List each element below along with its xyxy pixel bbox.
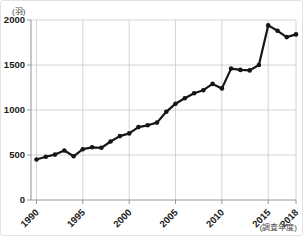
data-point bbox=[99, 146, 104, 151]
data-point bbox=[145, 123, 150, 128]
y-tick-label: 1000 bbox=[4, 104, 25, 115]
x-tick-label: 2010 bbox=[204, 207, 227, 230]
data-point bbox=[90, 145, 95, 150]
y-tick-label: 1500 bbox=[4, 59, 25, 70]
data-point bbox=[220, 86, 225, 91]
data-point bbox=[183, 96, 188, 101]
data-point bbox=[164, 110, 169, 115]
data-point bbox=[210, 82, 215, 87]
data-point bbox=[71, 154, 76, 159]
x-axis-caption: (調査年度) bbox=[260, 221, 297, 232]
data-point bbox=[118, 134, 123, 139]
data-point bbox=[53, 152, 58, 157]
y-axis-unit-label: (羽) bbox=[12, 5, 25, 16]
data-point bbox=[81, 147, 86, 152]
x-tick-label: 1995 bbox=[65, 206, 88, 229]
data-point bbox=[284, 35, 289, 40]
data-point bbox=[238, 68, 243, 73]
x-tick-label: 2005 bbox=[157, 206, 180, 229]
y-tick-label: 0 bbox=[20, 194, 25, 205]
line-chart-figure: (羽) 050010001500200019901995200020052010… bbox=[0, 0, 303, 236]
x-tick-label: 1990 bbox=[18, 207, 41, 230]
y-tick-label: 500 bbox=[9, 149, 25, 160]
data-point bbox=[294, 32, 299, 37]
data-point bbox=[257, 63, 262, 68]
chart-svg: 0500100015002000199019952000200520102015… bbox=[1, 1, 303, 236]
data-line bbox=[37, 25, 297, 159]
data-point bbox=[275, 29, 280, 34]
data-point bbox=[247, 68, 252, 73]
data-point bbox=[229, 66, 234, 71]
x-tick-label: 2000 bbox=[111, 207, 134, 230]
data-point bbox=[155, 120, 160, 125]
data-point bbox=[266, 23, 271, 28]
data-point bbox=[173, 101, 178, 106]
data-point bbox=[136, 125, 141, 130]
data-point bbox=[127, 131, 132, 136]
data-point bbox=[44, 155, 49, 160]
data-point bbox=[201, 88, 206, 93]
data-point bbox=[108, 139, 113, 144]
data-point bbox=[62, 148, 67, 153]
data-point bbox=[34, 157, 39, 162]
data-point bbox=[192, 91, 197, 96]
line-chart-plot: 0500100015002000199019952000200520102015… bbox=[1, 1, 302, 236]
